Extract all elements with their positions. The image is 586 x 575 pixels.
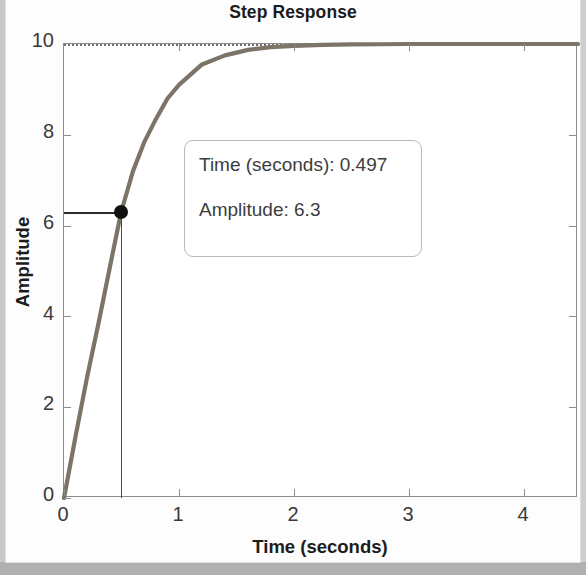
x-tick-top-2 bbox=[294, 44, 295, 51]
x-tick-3 bbox=[409, 489, 410, 496]
datatip-marker[interactable] bbox=[114, 205, 128, 219]
x-tick-0 bbox=[64, 489, 65, 496]
datatip-amplitude-text: Amplitude: 6.3 bbox=[199, 200, 421, 219]
x-tick-label-3: 3 bbox=[378, 503, 438, 526]
y-tick-right-2 bbox=[569, 407, 576, 408]
datatip-horizontal-guide bbox=[64, 212, 121, 214]
x-tick-top-4 bbox=[524, 44, 525, 51]
y-tick-label-8: 8 bbox=[0, 120, 54, 143]
datatip-vertical-guide bbox=[121, 212, 122, 498]
step-response-curve bbox=[64, 44, 578, 498]
y-tick-8 bbox=[64, 135, 71, 136]
x-axis-label: Time (seconds) bbox=[63, 536, 577, 558]
y-tick-label-2: 2 bbox=[0, 392, 54, 415]
x-tick-1 bbox=[179, 489, 180, 496]
y-tick-label-10: 10 bbox=[0, 29, 54, 52]
x-tick-label-1: 1 bbox=[148, 503, 208, 526]
chart-title: Step Response bbox=[0, 2, 586, 23]
page-bottom-margin bbox=[0, 562, 586, 575]
x-tick-4 bbox=[524, 489, 525, 496]
x-tick-label-0: 0 bbox=[33, 503, 93, 526]
page-right-margin bbox=[580, 0, 586, 562]
x-tick-2 bbox=[294, 489, 295, 496]
y-axis-label: Amplitude bbox=[12, 172, 34, 352]
x-tick-top-3 bbox=[409, 44, 410, 51]
datatip-time-text: Time (seconds): 0.497 bbox=[199, 155, 421, 174]
scanned-page: Step Response Time (seconds): 0.497 bbox=[0, 0, 586, 575]
y-tick-right-6 bbox=[569, 226, 576, 227]
datatip-box[interactable]: Time (seconds): 0.497 Amplitude: 6.3 bbox=[184, 140, 422, 257]
y-tick-right-8 bbox=[569, 135, 576, 136]
y-tick-4 bbox=[64, 316, 71, 317]
step-response-curve-svg bbox=[64, 44, 578, 498]
x-tick-label-4: 4 bbox=[493, 503, 553, 526]
y-tick-0 bbox=[64, 498, 71, 499]
x-tick-top-1 bbox=[179, 44, 180, 51]
x-tick-label-2: 2 bbox=[263, 503, 323, 526]
y-tick-2 bbox=[64, 407, 71, 408]
plot-axes-box: Time (seconds): 0.497 Amplitude: 6.3 bbox=[63, 43, 577, 497]
y-tick-right-4 bbox=[569, 316, 576, 317]
y-tick-6 bbox=[64, 226, 71, 227]
y-tick-label-0: 0 bbox=[0, 483, 54, 506]
